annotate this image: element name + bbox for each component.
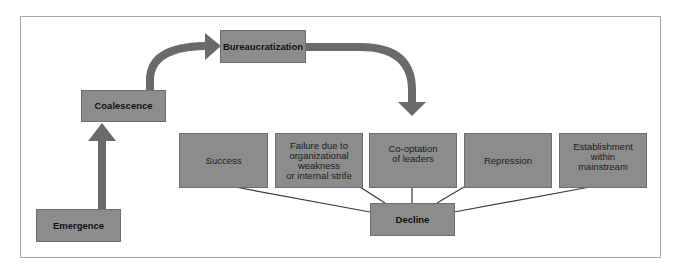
outcome-success: Success (179, 133, 268, 188)
arrow-curve-right-icon (150, 33, 221, 90)
arrow-up-icon (88, 123, 116, 210)
outcome-repression: Repression (464, 133, 552, 188)
outcome-cooptation: Co-optation of leaders (369, 133, 457, 188)
outcome-label-line: mainstream (578, 162, 628, 172)
stage-bureaucratization: Bureaucratization (220, 30, 306, 63)
stage-label: Bureaucratization (223, 42, 303, 52)
arrow-curve-down-icon (305, 47, 426, 116)
outcome-failure: Failure due to organizational weakness o… (275, 133, 363, 188)
outcome-label-line: organizational (289, 151, 348, 161)
stage-label: Coalescence (94, 101, 152, 111)
outcome-establishment: Establishment within mainstream (559, 133, 647, 188)
outcome-label-line: Failure due to (290, 141, 348, 151)
outcome-label-line: of leaders (392, 154, 434, 164)
outcome-label-line: weakness (298, 161, 340, 171)
stage-coalescence: Coalescence (81, 90, 166, 122)
outcome-label-line: or internal strife (286, 171, 351, 181)
stage-decline: Decline (370, 203, 455, 236)
outcome-label: Success (206, 156, 242, 166)
stage-label: Emergence (53, 221, 104, 231)
outcome-label: Repression (484, 156, 532, 166)
stage-emergence: Emergence (36, 209, 121, 242)
stage-label: Decline (396, 215, 430, 225)
